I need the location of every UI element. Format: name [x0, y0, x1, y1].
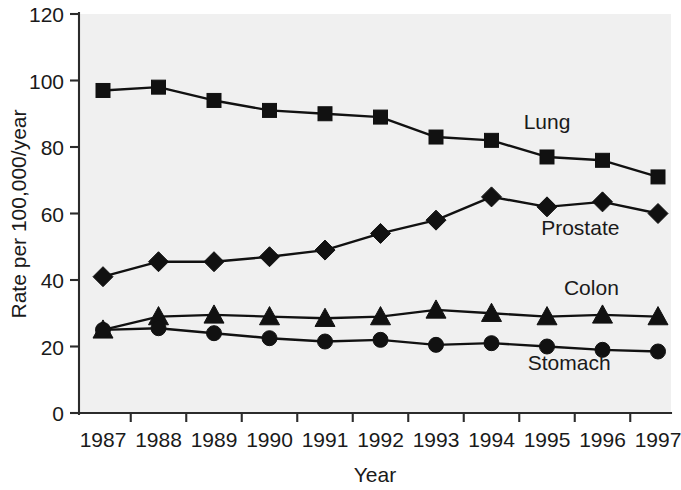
x-tick-label: 1991	[302, 428, 349, 451]
y-tick-label: 120	[29, 3, 64, 26]
y-tick-label: 100	[29, 70, 64, 93]
y-tick-label: 60	[41, 203, 64, 226]
x-tick-label: 1995	[524, 428, 571, 451]
y-axis-title: Rate per 100,000/year	[7, 110, 30, 319]
y-axis-ticks	[70, 14, 79, 413]
y-axis-tick-labels: 120 100 80 60 40 20 0	[29, 3, 64, 425]
line-chart: 120 100 80 60 40 20 0 198719881989199019…	[0, 0, 681, 490]
data-point-circle	[151, 321, 166, 336]
data-point-square	[485, 133, 499, 147]
series-label-colon: Colon	[564, 276, 619, 299]
x-axis-ticks	[131, 413, 631, 422]
x-tick-label: 1994	[468, 428, 515, 451]
series-label-prostate: Prostate	[541, 216, 619, 239]
data-point-square	[96, 83, 110, 97]
data-point-square	[429, 130, 443, 144]
data-point-circle	[429, 337, 444, 352]
y-tick-label: 80	[41, 136, 64, 159]
data-point-square	[540, 150, 554, 164]
x-axis-tick-labels: 1987198819891990199119921993199419951996…	[80, 428, 681, 451]
data-point-circle	[373, 332, 388, 347]
data-point-circle	[318, 334, 333, 349]
data-point-square	[374, 110, 388, 124]
data-point-circle	[484, 336, 499, 351]
data-point-circle	[651, 344, 666, 359]
data-point-square	[207, 93, 221, 107]
data-point-square	[263, 103, 277, 117]
y-tick-label: 40	[41, 269, 64, 292]
data-point-square	[318, 107, 332, 121]
data-point-circle	[262, 331, 277, 346]
x-tick-label: 1997	[635, 428, 681, 451]
x-tick-label: 1992	[357, 428, 404, 451]
x-tick-label: 1989	[191, 428, 238, 451]
x-tick-label: 1993	[413, 428, 460, 451]
data-point-circle	[207, 326, 222, 341]
y-tick-label: 0	[52, 402, 64, 425]
x-tick-label: 1990	[246, 428, 293, 451]
series-label-lung: Lung	[524, 110, 571, 133]
x-axis-title: Year	[354, 463, 396, 486]
data-point-circle	[96, 322, 111, 337]
chart-figure: 120 100 80 60 40 20 0 198719881989199019…	[0, 0, 681, 490]
data-point-square	[152, 80, 166, 94]
y-tick-label: 20	[41, 336, 64, 359]
series-label-stomach: Stomach	[528, 351, 611, 374]
data-point-square	[596, 153, 610, 167]
data-point-square	[651, 170, 665, 184]
x-tick-label: 1987	[80, 428, 127, 451]
x-tick-label: 1996	[579, 428, 626, 451]
x-tick-label: 1988	[135, 428, 182, 451]
